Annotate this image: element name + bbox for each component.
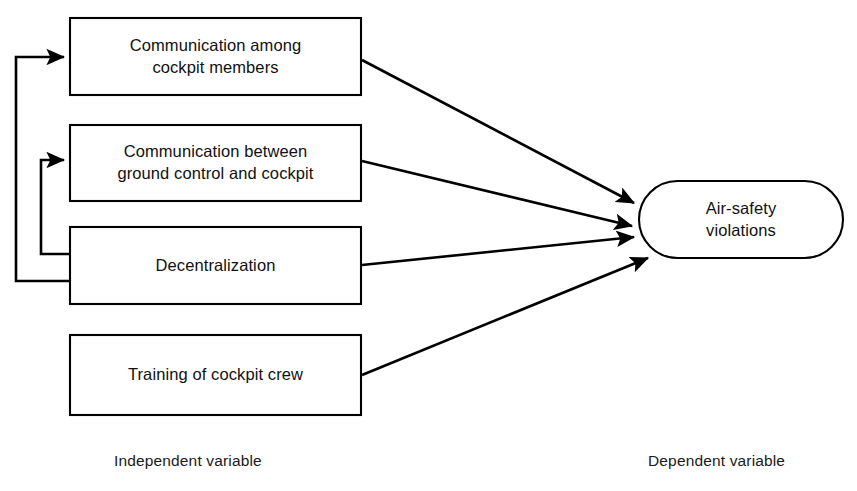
caption-dependent-variable: Dependent variable — [648, 452, 785, 470]
box-decentralization — [70, 227, 361, 304]
box-training-of-cockpit-crew — [70, 335, 361, 415]
box-communication-among-cockpit-members — [70, 18, 361, 95]
feedback-loop-decentralization-to-communication-ground — [41, 160, 70, 254]
box-communication-ground-control-cockpit — [70, 125, 361, 201]
arrow-communication-ground-to-violations — [362, 161, 632, 226]
node-air-safety-violations — [639, 181, 843, 258]
diagram-canvas: Communication among cockpit members Comm… — [0, 0, 857, 491]
arrow-communication-among-to-violations — [362, 60, 634, 203]
arrow-decentralization-to-violations — [362, 237, 634, 265]
diagram-vector-layer — [0, 0, 857, 491]
arrow-training-to-violations — [362, 258, 648, 375]
feedback-loop-decentralization-to-communication-among — [16, 57, 70, 281]
caption-independent-variable: Independent variable — [114, 452, 262, 470]
